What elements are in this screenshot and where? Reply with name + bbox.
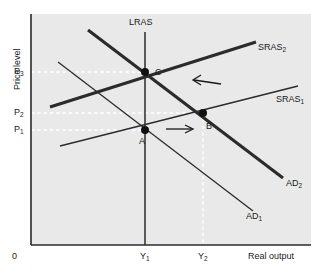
curve-label-ad2: AD2	[286, 179, 302, 188]
y-tick-p3-sub: 3	[20, 70, 24, 77]
curve-sras2	[50, 42, 256, 107]
curve-label-sras2-text: SRAS	[258, 42, 283, 52]
curve-ad2	[88, 30, 283, 178]
curve-ad1	[58, 62, 253, 211]
point-marker-c	[141, 68, 149, 76]
ad-as-diagram: Price level P3 P2 P1 Y1 Y2 0 Real output…	[0, 0, 325, 274]
curve-label-lras: LRAS	[129, 18, 153, 27]
x-tick-y2-sub: 2	[204, 255, 208, 262]
y-axis-title: Price level	[2, 12, 14, 92]
x-axis-title: Real output	[248, 252, 294, 261]
curve-label-sras1: SRAS1	[276, 95, 304, 104]
x-tick-y1-sub: 1	[146, 255, 150, 262]
y-tick-p2: P2	[14, 108, 24, 117]
x-tick-y1: Y1	[140, 252, 150, 261]
point-label-b: B	[206, 122, 212, 131]
y-tick-p1-sub: 1	[20, 128, 24, 135]
curve-label-ad2-sub: 2	[299, 182, 303, 189]
curve-label-sras1-sub: 1	[301, 98, 305, 105]
curve-label-sras1-text: SRAS	[276, 94, 301, 104]
point-label-c: C	[155, 68, 162, 77]
curve-label-ad1-text: AD	[246, 211, 259, 221]
y-tick-p1: P1	[14, 125, 24, 134]
y-tick-p2-sub: 2	[20, 111, 24, 118]
curve-label-sras2: SRAS2	[258, 43, 286, 52]
point-marker-a	[141, 126, 149, 134]
curve-label-lras-text: LRAS	[129, 17, 153, 27]
curve-label-ad1-sub: 1	[259, 215, 263, 222]
y-tick-p3: P3	[14, 67, 24, 76]
origin-label: 0	[12, 252, 17, 261]
x-tick-y2: Y2	[198, 252, 208, 261]
point-marker-b	[199, 109, 207, 117]
point-label-a: A	[139, 137, 145, 146]
curve-label-ad2-text: AD	[286, 178, 299, 188]
curve-sras1	[60, 86, 298, 146]
curve-label-ad1: AD1	[246, 212, 262, 221]
curve-label-sras2-sub: 2	[283, 46, 287, 53]
